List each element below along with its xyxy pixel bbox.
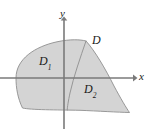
label-axis-x: x: [139, 71, 144, 82]
label-axis-x-text: x: [139, 70, 144, 82]
region-d-shaded-area: [16, 40, 130, 113]
label-region-d2: D2: [84, 83, 96, 98]
label-region-d-text: D: [92, 33, 101, 47]
label-region-d1: D1: [39, 55, 51, 70]
math-figure-region-d: D D1 D2 y x: [0, 0, 150, 129]
label-region-d2-subscript: 2: [93, 91, 97, 100]
label-region-d1-subscript: 1: [48, 63, 52, 72]
label-axis-y: y: [60, 8, 65, 19]
label-axis-y-text: y: [60, 7, 65, 19]
x-axis-arrow-icon: [133, 75, 138, 82]
figure-canvas: [0, 0, 150, 129]
label-region-d2-base: D: [84, 82, 93, 96]
label-region-d1-base: D: [39, 54, 48, 68]
label-region-d: D: [92, 34, 101, 46]
